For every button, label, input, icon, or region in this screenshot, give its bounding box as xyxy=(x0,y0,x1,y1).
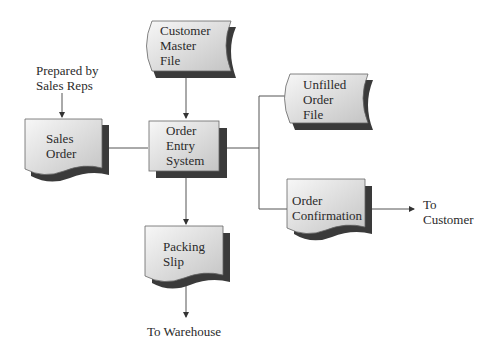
branch-connector xyxy=(259,96,287,209)
unfilled-order-file-label: Unfilled Order File xyxy=(303,77,346,122)
to-warehouse-annotation: To Warehouse xyxy=(147,324,221,339)
packing-slip-label: Packing Slip xyxy=(163,239,205,269)
sales-order-label: Sales Order xyxy=(46,131,76,161)
order-entry-system-label: Order Entry System xyxy=(166,123,204,168)
order-confirmation-label: Order Confirmation xyxy=(292,193,362,223)
flowchart-canvas xyxy=(0,0,497,351)
customer-master-file-label: Customer Master File xyxy=(160,23,211,68)
prepared-by-annotation: Prepared by Sales Reps xyxy=(36,63,98,93)
to-customer-annotation: To Customer xyxy=(423,197,474,227)
